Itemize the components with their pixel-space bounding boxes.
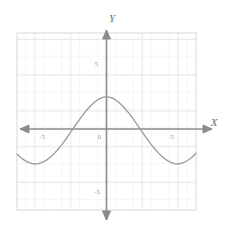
origin-label: 0: [98, 133, 102, 141]
y-tick-label-5: 5: [95, 60, 99, 68]
y-axis-arrow-down: [103, 211, 111, 220]
x-axis-arrow-left: [20, 125, 29, 133]
coordinate-plane-svg: 5 -5 -5 5 0 X Y: [0, 0, 234, 229]
x-axis: [20, 125, 212, 133]
x-tick-label-5: 5: [170, 133, 174, 141]
y-tick-label-minus5: -5: [94, 188, 100, 196]
x-axis-label: X: [210, 116, 219, 128]
graph-figure: 5 -5 -5 5 0 X Y: [0, 0, 234, 229]
x-tick-label-minus5: -5: [39, 133, 45, 141]
y-axis-label: Y: [109, 12, 117, 24]
y-axis-arrow-up: [103, 30, 111, 39]
y-axis: [103, 30, 111, 220]
